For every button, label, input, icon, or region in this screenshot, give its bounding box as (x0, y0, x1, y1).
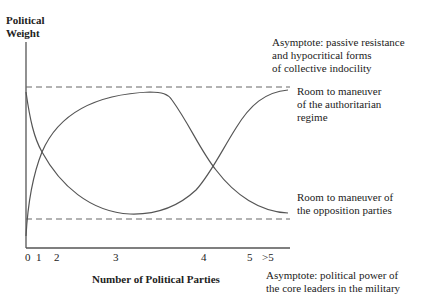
x-axis-label: Number of Political Parties (92, 273, 220, 286)
opposition-curve-label: Room to maneuver of the opposition parti… (297, 191, 393, 217)
x-tick-more-than-5: >5 (262, 251, 274, 263)
regime-curve-label: Room to maneuver of the authoritarian re… (297, 85, 381, 124)
lower-asymptote-line1: Asymptote: political power of (266, 269, 400, 282)
opposition-label-line1: Room to maneuver of (297, 191, 393, 204)
x-tick-0: 0 (25, 251, 31, 263)
y-axis-label: Political Weight (6, 14, 45, 40)
lower-asymptote-label: Asymptote: political power of the core l… (266, 269, 400, 295)
regime-label-line1: Room to maneuver (297, 85, 381, 98)
upper-asymptote-line2: and hypocritical forms (272, 49, 405, 62)
upper-asymptote-line1: Asymptote: passive resistance (272, 36, 405, 49)
regime-label-line2: of the authoritarian (297, 98, 381, 111)
regime-curve (26, 92, 288, 236)
x-tick-3: 3 (113, 251, 119, 263)
x-tick-2: 2 (54, 251, 60, 263)
opposition-label-line2: the opposition parties (297, 204, 393, 217)
x-tick-1: 1 (36, 251, 42, 263)
upper-asymptote-label: Asymptote: passive resistance and hypocr… (272, 36, 405, 75)
y-axis-label-line2: Weight (6, 27, 45, 40)
lower-asymptote-line2: the core leaders in the military (266, 282, 400, 295)
upper-asymptote-line3: of collective indocility (272, 62, 405, 75)
x-tick-5: 5 (247, 251, 253, 263)
y-axis-label-line1: Political (6, 14, 45, 27)
x-tick-4: 4 (201, 251, 207, 263)
opposition-curve (26, 90, 288, 214)
regime-label-line3: regime (297, 111, 381, 124)
